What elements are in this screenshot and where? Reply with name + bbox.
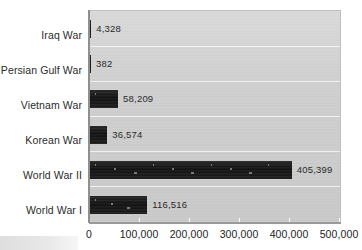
bar-3 bbox=[89, 126, 107, 144]
gridline-h-0 bbox=[89, 46, 340, 47]
x-axis-tick-label-1: 100,000 bbox=[120, 228, 159, 240]
bar-value-label-3: 36,574 bbox=[112, 130, 142, 140]
x-axis-tick-label-2: 200,000 bbox=[170, 228, 209, 240]
bar-texture-speck bbox=[95, 93, 96, 95]
bar-value-label-2: 58,209 bbox=[123, 94, 153, 104]
bar-texture-speck bbox=[134, 172, 137, 174]
bar-texture-speck bbox=[95, 164, 96, 166]
y-axis-label-4: World War II bbox=[0, 169, 82, 181]
bar-texture-speck bbox=[114, 168, 116, 170]
gridline-h-4 bbox=[89, 186, 340, 187]
y-axis-line bbox=[88, 10, 90, 223]
x-axis-tick-label-0: 0 bbox=[86, 228, 92, 240]
scan-artifact bbox=[0, 236, 78, 250]
bar-texture-speck bbox=[191, 172, 194, 174]
bar-texture-speck bbox=[127, 207, 130, 209]
bar-texture-speck bbox=[95, 199, 96, 201]
plot-area: 4,32838258,20936,574405,399116,516 bbox=[89, 10, 341, 222]
bar-texture-speck bbox=[230, 168, 232, 170]
x-axis-tick-label-4: 400,000 bbox=[270, 228, 309, 240]
bar-4 bbox=[89, 161, 292, 179]
bar-value-label-5: 116,516 bbox=[152, 200, 187, 210]
bar-texture-speck bbox=[172, 168, 174, 170]
x-axis-line bbox=[89, 222, 341, 224]
x-axis-tick-label-3: 300,000 bbox=[220, 228, 259, 240]
y-axis-label-3: Korean War bbox=[0, 134, 82, 146]
bar-5 bbox=[89, 196, 147, 214]
y-axis-label-1: Persian Gulf War bbox=[0, 64, 82, 76]
bar-texture-speck bbox=[211, 164, 212, 166]
bar-chart: Iraq War Persian Gulf War Vietnam War Ko… bbox=[0, 0, 362, 250]
bar-texture-speck bbox=[268, 164, 269, 166]
bar-value-label-1: 382 bbox=[96, 59, 112, 69]
bar-value-label-0: 4,328 bbox=[96, 24, 121, 34]
gridline-h-3 bbox=[89, 151, 340, 152]
y-axis-label-0: Iraq War bbox=[0, 29, 82, 41]
bar-value-label-4: 405,399 bbox=[297, 165, 333, 175]
y-axis-label-5: World War I bbox=[0, 204, 82, 216]
gridline-h-2 bbox=[89, 116, 340, 117]
bar-2 bbox=[89, 90, 118, 108]
bar-texture-speck bbox=[111, 203, 113, 205]
bar-texture-speck bbox=[153, 164, 154, 166]
x-axis-tick-label-5: 500,000 bbox=[320, 228, 359, 240]
y-axis-category-labels: Iraq War Persian Gulf War Vietnam War Ko… bbox=[0, 10, 86, 222]
y-axis-label-2: Vietnam War bbox=[0, 99, 82, 111]
gridline-h-1 bbox=[89, 81, 340, 82]
bar-texture-speck bbox=[249, 172, 252, 174]
